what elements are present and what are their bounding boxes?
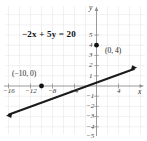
equation-text: −2x + 5y = 20 bbox=[22, 29, 76, 39]
y-tick-label--1: −1 bbox=[86, 93, 94, 100]
equation-label: −2x + 5y = 20 bbox=[22, 30, 76, 39]
y-tick-label-3: 3 bbox=[89, 52, 93, 59]
y-tick-label--3: −3 bbox=[86, 113, 94, 120]
point-x-intercept bbox=[39, 84, 44, 89]
y-tick-label--2: −2 bbox=[86, 103, 94, 110]
y-intercept-point-label: (0, 4) bbox=[105, 47, 121, 55]
y-axis-arrow bbox=[95, 7, 99, 12]
x-axis-name-label: x bbox=[138, 88, 141, 96]
y-tick-label--5: −5 bbox=[86, 133, 94, 140]
x-tick-label-4: 4 bbox=[117, 88, 121, 95]
y-tick-label-2: 2 bbox=[89, 62, 93, 69]
y-tick-label-1: 1 bbox=[89, 73, 93, 80]
y-axis-name-label: y bbox=[89, 4, 92, 12]
x-tick-label--4: −4 bbox=[70, 88, 78, 95]
x-tick-label--16: −16 bbox=[3, 88, 15, 95]
point-y-intercept bbox=[94, 43, 99, 48]
graph-figure: −2x + 5y = 20 (0, 4) (−10, 0) y x −16 −1… bbox=[0, 0, 147, 141]
y-tick-label-5: 5 bbox=[89, 32, 93, 39]
y-tick-label--4: −4 bbox=[86, 124, 94, 131]
x-tick-label--8: −8 bbox=[48, 88, 56, 95]
x-intercept-point-label: (−10, 0) bbox=[12, 70, 36, 78]
y-tick-label-4: 4 bbox=[89, 42, 93, 49]
x-tick-label--12: −12 bbox=[25, 88, 37, 95]
